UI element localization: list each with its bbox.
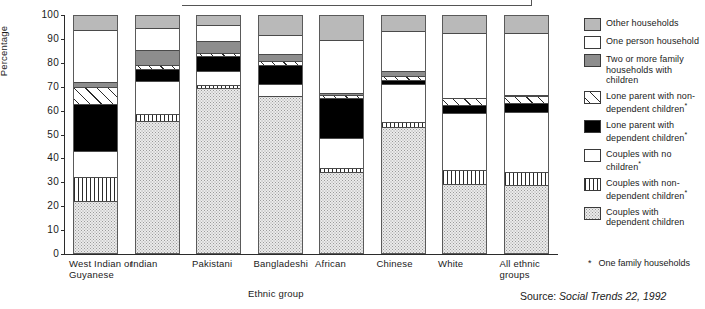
y-axis-tick-mark	[61, 230, 65, 231]
top-rule	[182, 5, 532, 6]
bar-segment	[320, 172, 363, 253]
legend-item[interactable]: Other households	[584, 18, 702, 31]
x-axis-tick-label: White	[438, 258, 506, 269]
legend-item-label: Two or more family households with child…	[606, 54, 702, 86]
bar-white[interactable]	[442, 15, 487, 254]
bar-segment	[136, 69, 179, 81]
bar-segment	[443, 105, 486, 113]
legend-item[interactable]: Couples with non-dependent children*	[584, 178, 702, 202]
bar-segment	[443, 170, 486, 184]
bar-segment	[505, 96, 548, 103]
bar-segment	[505, 185, 548, 253]
bar-segment	[74, 87, 117, 104]
bar-pakistani[interactable]	[196, 15, 241, 254]
bar-segment	[197, 88, 240, 253]
y-axis-tick-label: 40	[29, 153, 65, 163]
legend-item-label: Couples with no children*	[606, 149, 702, 173]
footnote-marker: *	[588, 258, 592, 269]
legend-item[interactable]: Lone parent with non-dependent children*	[584, 91, 702, 115]
bar-segment	[197, 16, 240, 25]
bar-all-ethnic-groups[interactable]	[504, 15, 549, 254]
bar-indian[interactable]	[135, 15, 180, 254]
bar-chinese[interactable]	[381, 15, 426, 254]
footnote: * One family households	[588, 258, 690, 269]
source-note: Source: Social Trends 22, 1992	[520, 290, 666, 302]
bar-segment	[136, 50, 179, 64]
bar-segment	[197, 71, 240, 85]
bar-segment	[505, 112, 548, 172]
bar-segment	[74, 151, 117, 177]
bar-segment	[136, 81, 179, 114]
bar-segment	[197, 25, 240, 40]
bar-segment	[320, 16, 363, 40]
legend-item-label: Lone parent with non-dependent children*	[606, 91, 702, 115]
bar-segment	[74, 104, 117, 151]
y-axis-tick-mark	[61, 63, 65, 64]
source-title: Social Trends 22, 1992	[559, 290, 666, 302]
legend-item[interactable]: Couples with dependent children	[584, 207, 702, 228]
y-axis-title: Percentage	[0, 6, 9, 96]
bar-bangladeshi[interactable]	[258, 15, 303, 254]
x-axis-tick-label: Indian	[131, 258, 199, 269]
y-axis-tick-label: 20	[29, 201, 65, 211]
legend-swatch-other-households	[584, 18, 601, 31]
bar-segment	[259, 65, 302, 84]
x-axis-tick-label: Pakistani	[192, 258, 260, 269]
bar-segment	[136, 114, 179, 121]
legend-item[interactable]: Two or more family households with child…	[584, 54, 702, 86]
bar-segment	[443, 184, 486, 253]
plot-area: 0102030405060708090100 West Indian or Gu…	[64, 15, 558, 255]
legend-swatch-couples-non-dependent	[584, 178, 601, 191]
top-rule-right-cap	[531, 0, 532, 6]
y-axis-tick-mark	[61, 158, 65, 159]
bar-segment	[259, 96, 302, 253]
y-axis-tick-label: 70	[29, 82, 65, 92]
bar-segment	[382, 16, 425, 31]
legend-swatch-two-or-more-family-households	[584, 54, 601, 67]
y-axis-tick-mark	[61, 206, 65, 207]
bar-segment	[259, 84, 302, 96]
bar-segment	[505, 172, 548, 185]
y-axis-tick-mark	[61, 87, 65, 88]
legend-swatch-one-person-household	[584, 36, 601, 49]
x-axis-tick-label: Chinese	[377, 258, 445, 269]
bar-segment	[136, 28, 179, 51]
bar-segment	[74, 30, 117, 82]
footnote-text: One family households	[599, 258, 691, 269]
y-axis-tick-label: 50	[29, 130, 65, 140]
legend: Other householdsOne person householdTwo …	[584, 18, 702, 233]
legend-item[interactable]: Couples with no children*	[584, 149, 702, 173]
bar-segment	[382, 31, 425, 70]
legend-item-label: Lone parent with dependent children*	[606, 120, 702, 144]
y-axis-tick-label: 0	[29, 249, 65, 259]
bar-segment	[197, 56, 240, 70]
y-axis-tick-mark	[61, 135, 65, 136]
bar-segment	[382, 127, 425, 253]
legend-swatch-lone-parent-dependent	[584, 120, 601, 133]
legend-swatch-lone-parent-non-dependent	[584, 91, 601, 104]
y-axis-tick-mark	[61, 39, 65, 40]
legend-item[interactable]: One person household	[584, 36, 702, 49]
bar-segment	[197, 41, 240, 53]
x-axis-tick-label: Bangladeshi	[254, 258, 322, 269]
source-prefix: Source:	[520, 290, 559, 302]
y-axis-tick-label: 30	[29, 177, 65, 187]
x-axis-title: Ethnic group	[248, 288, 304, 299]
legend-item-label: Other households	[606, 18, 679, 29]
y-axis-tick-mark	[61, 182, 65, 183]
legend-item[interactable]: Lone parent with dependent children*	[584, 120, 702, 144]
x-axis-tick-label: All ethnic groups	[500, 258, 568, 280]
legend-item-label: One person household	[606, 36, 699, 47]
bar-segment	[74, 177, 117, 201]
bar-african[interactable]	[319, 15, 364, 254]
bar-segment	[74, 201, 117, 253]
bar-segment	[505, 103, 548, 111]
bar-segment	[443, 113, 486, 170]
y-axis-tick-label: 60	[29, 106, 65, 116]
bar-segment	[320, 40, 363, 93]
bar-segment	[136, 16, 179, 28]
bar-west-indian-or-guyanese[interactable]	[73, 15, 118, 254]
bar-segment	[320, 138, 363, 168]
chart-root: Percentage 0102030405060708090100 West I…	[0, 0, 705, 309]
x-axis-tick-label: African	[315, 258, 383, 269]
